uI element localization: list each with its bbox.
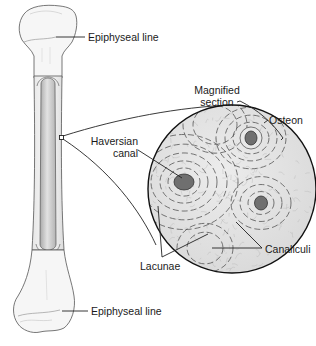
label-epiphyseal-line-bottom: Epiphyseal line <box>91 305 162 317</box>
medullary-cavity <box>40 78 56 250</box>
label-haversian-line1: Haversian <box>86 135 138 147</box>
canaliculi-texture <box>186 266 193 268</box>
canaliculi-texture <box>258 105 262 106</box>
canaliculi-texture <box>297 266 299 271</box>
canaliculi-texture <box>152 131 155 133</box>
label-lacunae: Lacunae <box>140 260 180 272</box>
canaliculi-texture <box>307 103 310 105</box>
canaliculi-texture <box>309 106 315 108</box>
haversian-canal-main <box>174 174 194 190</box>
label-epiphyseal-line-top: Epiphyseal line <box>88 31 159 43</box>
canaliculi-texture <box>313 114 316 119</box>
label-canaliculi: Canaliculi <box>265 243 311 255</box>
canaliculi-texture <box>308 130 313 135</box>
bone-diagram <box>0 0 316 346</box>
canaliculi-texture <box>293 256 297 259</box>
canaliculi-texture <box>157 128 162 130</box>
canaliculi-texture <box>193 265 194 269</box>
canaliculi-texture <box>191 269 198 274</box>
canaliculi-texture <box>145 145 150 147</box>
label-osteon: Osteon <box>269 114 303 126</box>
haversian-canal-lower <box>255 196 268 210</box>
canaliculi-texture <box>185 265 187 266</box>
canaliculi-texture <box>241 273 243 277</box>
canaliculi-texture <box>263 106 268 108</box>
canaliculi-texture <box>312 238 316 241</box>
canaliculi-texture <box>178 114 184 119</box>
sample-point-marker <box>60 136 64 140</box>
distal-epiphysis <box>14 250 75 333</box>
canaliculi-texture <box>299 110 301 113</box>
canaliculi-texture <box>155 250 161 255</box>
canaliculi-texture <box>154 132 160 133</box>
label-magnified-line1: Magnified <box>180 84 254 96</box>
proximal-epiphysis <box>19 5 77 78</box>
canaliculi-texture <box>185 266 189 269</box>
label-haversian-canal: Haversian canal <box>86 135 138 159</box>
canaliculi-texture <box>289 269 293 272</box>
label-magnified-section: Magnified section <box>180 84 254 108</box>
haversian-canal-osteon <box>245 131 257 145</box>
label-magnified-line2: section <box>180 96 254 108</box>
label-haversian-line2: canal <box>86 147 138 159</box>
canaliculi-texture <box>151 153 153 158</box>
canaliculi-texture <box>311 267 314 272</box>
